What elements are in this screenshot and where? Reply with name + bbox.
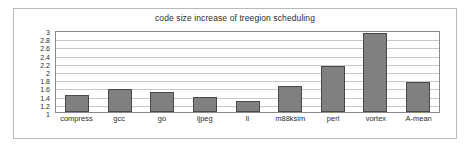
bar-slot (99, 32, 142, 112)
y-axis-tick-label: 2.4 (40, 53, 50, 60)
y-axis-tick-label: 1.6 (40, 86, 50, 93)
x-axis-tick-label: gcc (98, 115, 141, 123)
y-axis-tick-label: 1 (46, 111, 50, 118)
x-axis-tick-label: perl (312, 115, 355, 123)
bar (150, 92, 174, 112)
bar (278, 86, 302, 112)
bar (193, 97, 217, 112)
y-axis-tick-label: 1.4 (40, 94, 50, 101)
y-axis: 32.82.62.42.221.81.61.41.21 (14, 31, 53, 113)
y-axis-tick-label: 2.2 (40, 61, 50, 68)
plot-area (55, 31, 440, 113)
bar-slot (226, 32, 269, 112)
x-axis: compressgccgoijpeglim88ksimperlvortexA-m… (55, 115, 440, 123)
bar (108, 89, 132, 112)
x-axis-tick-label: go (141, 115, 184, 123)
x-axis-tick-label: A-mean (397, 115, 440, 123)
bar-slot (141, 32, 184, 112)
x-axis-tick-label: li (226, 115, 269, 123)
y-axis-tick-label: 2 (46, 70, 50, 77)
bar (321, 66, 345, 112)
bar (363, 33, 387, 112)
y-axis-tick-label: 1.2 (40, 102, 50, 109)
bar (65, 95, 89, 112)
bar (236, 101, 260, 112)
bar-slot (354, 32, 397, 112)
bar-slot (269, 32, 312, 112)
bar (406, 82, 430, 112)
x-axis-tick-label: vortex (354, 115, 397, 123)
y-axis-tick-label: 2.6 (40, 45, 50, 52)
x-axis-tick-label: ijpeg (183, 115, 226, 123)
bar-slot (184, 32, 227, 112)
y-axis-tick-label: 2.8 (40, 37, 50, 44)
bar-series (56, 32, 439, 112)
x-axis-tick-label: m88ksim (269, 115, 312, 123)
bar-slot (56, 32, 99, 112)
y-axis-tick-label: 3 (46, 29, 50, 36)
bar-slot (397, 32, 440, 112)
bar-slot (311, 32, 354, 112)
x-axis-tick-label: compress (55, 115, 98, 123)
chart-title: code size increase of treegion schedulin… (14, 13, 456, 23)
chart-frame: code size increase of treegion schedulin… (13, 8, 457, 139)
y-axis-tick-label: 1.8 (40, 78, 50, 85)
